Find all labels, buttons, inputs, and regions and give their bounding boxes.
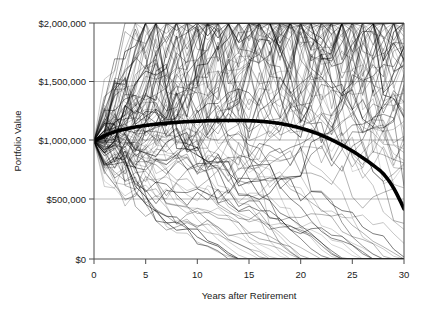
x-tick-label-20: 20 (295, 269, 306, 280)
y-tick-label-1500000: $1,500,000 (38, 76, 86, 87)
y-tick-label-1000000: $1,000,000 (38, 135, 86, 146)
monte-carlo-portfolio-chart: $2,000,000 $1,500,000 $1,000,000 $500,00… (0, 0, 432, 313)
x-tick-label-5: 5 (143, 269, 148, 280)
y-tick-label-0: $0 (75, 254, 86, 265)
x-tick-label-25: 25 (347, 269, 358, 280)
x-tick-label-10: 10 (192, 269, 203, 280)
x-tick-label-30: 30 (399, 269, 410, 280)
y-tick-label-500000: $500,000 (46, 194, 86, 205)
x-axis-title: Years after Retirement (202, 290, 297, 301)
y-tick-label-2000000: $2,000,000 (38, 18, 86, 29)
x-tick-label-0: 0 (91, 269, 96, 280)
y-axis-title: Portfolio Value (12, 110, 23, 171)
x-tick-label-15: 15 (244, 269, 255, 280)
chart-container: $2,000,000 $1,500,000 $1,000,000 $500,00… (0, 0, 432, 313)
